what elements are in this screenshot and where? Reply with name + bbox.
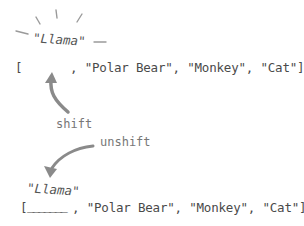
unshift-arrow-icon (44, 146, 93, 178)
unshift-label: unshift (100, 135, 151, 149)
bottom-array-remaining-items: , "Polar Bear", "Monkey", "Cat"] (72, 200, 304, 215)
shift-label: shift (56, 117, 92, 131)
top-array-open-bracket: [ (15, 60, 22, 75)
top-array-remaining-items: , "Polar Bear", "Monkey", "Cat"] (70, 60, 304, 75)
shift-arrow-icon (45, 72, 68, 112)
bottom-array-empty-slot: _______ (27, 198, 66, 213)
